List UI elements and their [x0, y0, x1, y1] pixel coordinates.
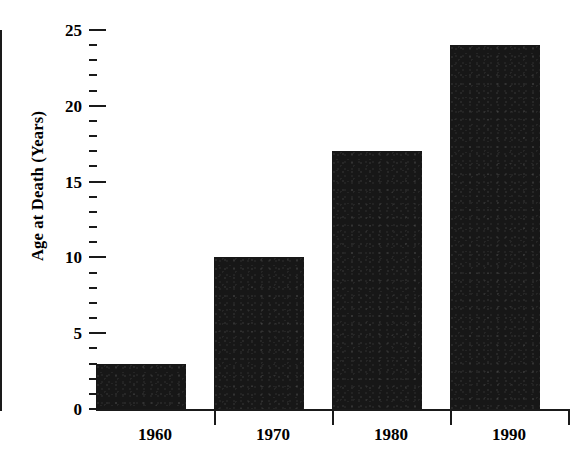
- y-axis-major-tick: [89, 332, 106, 334]
- y-axis-minor-tick: [89, 90, 97, 92]
- y-axis-major-tick: [89, 29, 106, 31]
- y-axis-minor-tick: [89, 44, 97, 46]
- y-axis-tick-label: 0: [74, 401, 83, 418]
- x-axis-tick: [214, 409, 216, 425]
- y-axis-minor-tick: [89, 287, 97, 289]
- bar-chart-figure: Age at Death (Years) 0510152025 19601970…: [0, 0, 582, 459]
- y-axis-minor-tick: [89, 302, 97, 304]
- y-axis-tick-label: 10: [65, 249, 82, 266]
- y-axis-line: [0, 30, 2, 411]
- y-axis-minor-tick: [89, 135, 97, 137]
- y-axis-minor-tick: [89, 272, 97, 274]
- y-axis-tick-label: 20: [65, 97, 82, 114]
- y-axis-minor-tick: [89, 59, 97, 61]
- y-axis-minor-tick: [89, 211, 97, 213]
- y-axis-minor-tick: [89, 317, 97, 319]
- x-axis-tick: [450, 409, 452, 425]
- x-axis-end-tick: [568, 409, 570, 425]
- bar-1970: [214, 257, 304, 409]
- y-axis-minor-tick: [89, 74, 97, 76]
- y-axis-minor-tick: [89, 120, 97, 122]
- y-axis-tick-label: 25: [65, 22, 82, 39]
- y-axis-minor-tick: [89, 226, 97, 228]
- bar-1990: [450, 45, 540, 409]
- y-axis-minor-tick: [89, 165, 97, 167]
- plot-area: [96, 30, 568, 409]
- bar-1960: [96, 364, 186, 409]
- y-axis-minor-tick: [89, 241, 97, 243]
- x-axis-tick-label-1960: 1960: [138, 426, 172, 443]
- bar-1980: [332, 151, 422, 409]
- y-axis-minor-tick: [89, 150, 97, 152]
- y-axis-minor-tick: [89, 347, 97, 349]
- y-axis-tick-label: 5: [74, 325, 83, 342]
- x-axis-tick: [332, 409, 334, 425]
- y-axis-major-tick: [89, 256, 106, 258]
- y-axis-minor-tick: [89, 196, 97, 198]
- y-axis-major-tick: [89, 181, 106, 183]
- x-axis-tick-label-1980: 1980: [374, 426, 408, 443]
- y-axis-major-tick: [89, 105, 106, 107]
- figure-caption-clip: [0, 448, 582, 459]
- y-axis-tick-label: 15: [65, 173, 82, 190]
- x-axis-tick-label-1990: 1990: [492, 426, 526, 443]
- x-axis-tick-label-1970: 1970: [256, 426, 290, 443]
- y-axis-title: Age at Death (Years): [28, 56, 48, 316]
